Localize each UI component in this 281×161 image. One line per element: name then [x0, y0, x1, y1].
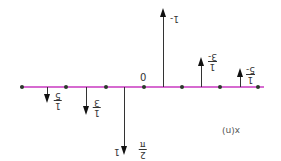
origin-label: 0: [140, 72, 146, 83]
axis-point: [20, 85, 24, 89]
axis-point: [104, 85, 108, 89]
arrow-down-icon: [44, 94, 50, 103]
stem-label: 13: [93, 98, 101, 117]
stem-label: 1: [114, 147, 120, 156]
stem-label: 1-: [170, 14, 179, 23]
arrow-up-icon: [160, 8, 166, 17]
arrow-up-icon: [237, 68, 243, 77]
arrow-down-icon: [83, 106, 89, 115]
stem-label: 13-: [208, 52, 217, 71]
axis-point: [218, 85, 222, 89]
axis-point: [64, 85, 68, 89]
stem-up: [163, 12, 164, 87]
stem-label: 15-: [246, 65, 255, 84]
stem-down: [124, 87, 125, 150]
stem-label: 15: [54, 91, 62, 110]
function-label: x(n): [222, 126, 240, 136]
arrow-down-icon: [121, 146, 127, 155]
arrow-up-icon: [198, 57, 204, 66]
axis-point: [180, 85, 184, 89]
axis-point: [142, 85, 146, 89]
axis-point: [256, 85, 260, 89]
stem-label: 2π: [139, 140, 147, 159]
